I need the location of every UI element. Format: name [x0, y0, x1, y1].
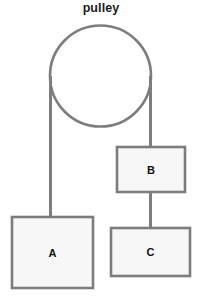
diagram-canvas — [0, 0, 202, 299]
block-b-label: B — [147, 164, 155, 175]
pulley-diagram: pulley A B C — [0, 0, 202, 299]
block-a-label: A — [49, 247, 57, 258]
blocks-group — [12, 147, 190, 288]
block-c-label: C — [147, 247, 155, 258]
pulley-wheel — [50, 26, 151, 127]
